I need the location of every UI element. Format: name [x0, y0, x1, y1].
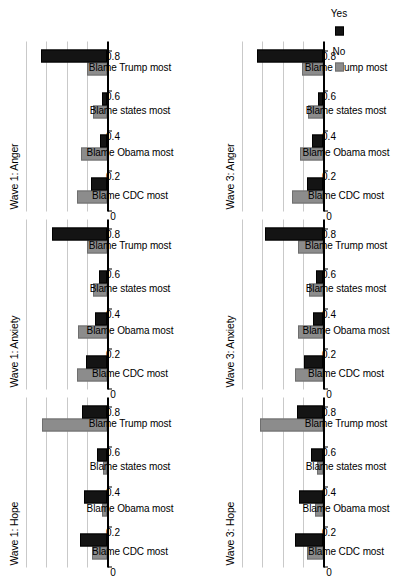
category-label-slot: Blame Obama most — [124, 126, 216, 169]
bar-yes — [318, 92, 324, 105]
axis-tick-label: 0.2 — [106, 171, 120, 181]
category-label: Blame Obama most — [303, 503, 390, 513]
axis-tick-label: 0.6 — [322, 269, 336, 279]
axis-tick-label: 0.6 — [106, 447, 120, 457]
category-label: Blame states most — [90, 105, 171, 115]
bar-yes — [86, 355, 108, 368]
bar-yes — [82, 405, 108, 418]
bar-yes — [41, 49, 107, 62]
axis-tick — [324, 348, 328, 349]
axis-tick-label: 0.8 — [322, 407, 336, 417]
axis-tick-label: 0.6 — [322, 91, 336, 101]
axis-tick-label: 0.4 — [106, 487, 120, 497]
bar-yes — [299, 490, 324, 503]
bar-yes — [311, 448, 323, 461]
legend-label: No — [333, 47, 346, 57]
axis-tick — [108, 446, 112, 447]
bar-yes — [265, 227, 324, 240]
category-label: Blame states most — [306, 105, 387, 115]
category-label: Blame states most — [306, 283, 387, 293]
axis-tick — [324, 210, 328, 211]
axis-tick — [324, 406, 328, 407]
category-label-slot: Blame Obama most — [124, 304, 216, 347]
legend-item: No — [334, 45, 344, 71]
category-labels: Blame CDC mostBlame Obama mostBlame stat… — [124, 397, 216, 567]
axis-tick-label: 0.2 — [322, 349, 336, 359]
category-label-slot: Blame CDC most — [124, 169, 216, 212]
category-label-slot: Blame CDC most — [340, 347, 395, 390]
category-label-slot: Blame Obama most — [124, 482, 216, 525]
axis-tick-label: 0.4 — [106, 131, 120, 141]
axis-tick-label: 0.2 — [106, 527, 120, 537]
axis-tick — [108, 210, 112, 211]
bar-yes — [257, 49, 323, 62]
axis-tick-label: 0.8 — [106, 229, 120, 239]
axis-tick-label: 0.4 — [322, 487, 336, 497]
bar-yes — [97, 448, 108, 461]
axis-tick — [324, 50, 328, 51]
panel-title: Wave 3: Hope — [224, 397, 236, 565]
bar-yes — [297, 405, 324, 418]
bar-yes — [52, 227, 108, 240]
axis-tick-label: 0 — [110, 567, 116, 577]
panel-title: Wave 1: Anger — [8, 41, 20, 209]
category-label: Blame Obama most — [303, 325, 390, 335]
category-label: Blame Obama most — [87, 503, 174, 513]
axis-tick — [108, 170, 112, 171]
category-label: Blame Trump most — [305, 62, 387, 72]
axis-tick — [324, 170, 328, 171]
category-label: Blame states most — [90, 283, 171, 293]
chart-panel: Wave 3: Anger00.20.40.60.8Blame CDC most… — [216, 41, 395, 211]
category-label-slot: Blame states most — [340, 440, 395, 483]
category-label-slot: Blame states most — [340, 262, 395, 305]
axis-tick-label: 0.8 — [322, 229, 336, 239]
bar-yes — [95, 312, 107, 325]
category-label: Blame Obama most — [87, 147, 174, 157]
axis-tick — [108, 526, 112, 527]
category-label: Blame Trump most — [305, 418, 387, 428]
category-label-slot: Blame states most — [124, 84, 216, 127]
axis-tick-label: 0.8 — [106, 407, 120, 417]
axis-tick — [108, 268, 112, 269]
axis-tick-label: 0.6 — [106, 91, 120, 101]
bar-yes — [100, 134, 107, 147]
category-label-slot: Blame Obama most — [340, 304, 395, 347]
category-label: Blame CDC most — [308, 190, 384, 200]
category-label: Blame CDC most — [92, 546, 168, 556]
axis-tick — [108, 90, 112, 91]
legend-swatch-no — [335, 62, 344, 71]
bar-yes — [80, 533, 107, 546]
category-label: Blame CDC most — [308, 368, 384, 378]
axis-tick — [108, 348, 112, 349]
category-label-slot: Blame CDC most — [124, 347, 216, 390]
category-label: Blame CDC most — [308, 546, 384, 556]
axis-tick — [324, 228, 328, 229]
axis-tick — [108, 486, 112, 487]
axis-tick — [324, 446, 328, 447]
legend: NoYes — [334, 6, 344, 71]
category-label: Blame CDC most — [92, 368, 168, 378]
bar-yes — [84, 490, 108, 503]
category-label-slot: Blame states most — [124, 262, 216, 305]
category-label-slot: Blame Trump most — [340, 219, 395, 262]
category-label-slot: Blame CDC most — [340, 169, 395, 212]
chart-panel: Wave 1: Hope00.20.40.60.8Blame CDC mostB… — [0, 397, 216, 567]
axis-tick — [324, 526, 328, 527]
axis-tick — [108, 308, 112, 309]
axis-tick — [324, 130, 328, 131]
bar-yes — [312, 134, 323, 147]
category-label-slot: Blame Trump most — [340, 397, 395, 440]
bar-yes — [304, 355, 323, 368]
category-label: Blame states most — [306, 461, 387, 471]
axis-tick — [108, 406, 112, 407]
axis-tick-label: 0.2 — [106, 349, 120, 359]
chart-panel: Wave 1: Anxiety00.20.40.60.8Blame CDC mo… — [0, 219, 216, 389]
bar-yes — [102, 92, 107, 105]
chart-panel: Wave 1: Anger00.20.40.60.8Blame CDC most… — [0, 41, 216, 211]
category-label-slot: Blame CDC most — [340, 525, 395, 568]
category-label: Blame Trump most — [305, 240, 387, 250]
bar-yes — [91, 177, 108, 190]
legend-item: Yes — [334, 6, 344, 35]
